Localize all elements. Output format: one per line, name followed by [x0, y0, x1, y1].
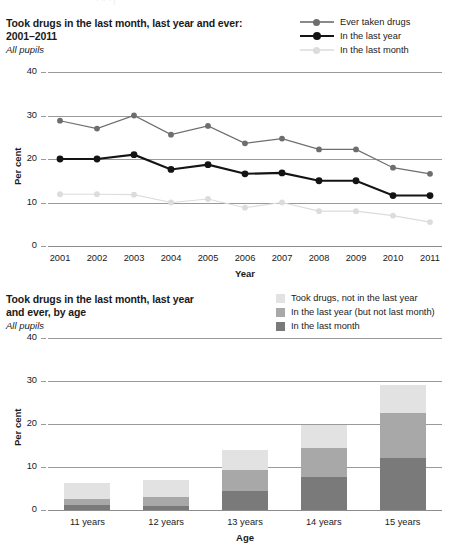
bar-chart-plot-area: 01020304011 years12 years13 years14 year… [48, 338, 442, 510]
line-chart-x-axis-title: Year [48, 268, 442, 279]
bar-14-years[interactable] [301, 425, 347, 510]
line-chart-subtitle: All pupils [6, 44, 44, 55]
swatch-took-drugs-not-in-last-year [276, 294, 285, 303]
bar-chart-y-tick-mark [41, 424, 46, 425]
line-data-point[interactable] [57, 118, 63, 124]
bar-segment-took-drugs-not-in-the-last-year[interactable] [143, 480, 189, 497]
line-data-point[interactable] [390, 213, 396, 219]
legend-label-ever-taken-drugs: Ever taken drugs [340, 17, 410, 27]
line-data-point[interactable] [427, 192, 434, 199]
bar-11-years[interactable] [64, 483, 110, 510]
bar-chart-y-tick-label: 10 [11, 461, 37, 471]
bar-chart-title-line1: Took drugs in the last month, last year [6, 293, 256, 306]
line-data-point[interactable] [316, 177, 323, 184]
line-data-point[interactable] [94, 126, 100, 132]
legend-item-in-last-year-not-last-month[interactable]: In the last year (but not last month) [276, 305, 435, 319]
line-swatch-in-the-last-month [300, 44, 334, 56]
line-data-point[interactable] [353, 177, 360, 184]
bar-segment-in-the-last-year-but-not-last-month-[interactable] [301, 448, 347, 477]
line-data-point[interactable] [205, 161, 212, 168]
bar-segment-took-drugs-not-in-the-last-year[interactable] [64, 483, 110, 499]
bar-chart-x-tick-label: 11 years [48, 517, 127, 527]
bar-segment-in-the-last-month[interactable] [222, 491, 268, 510]
bar-chart-y-tick-label: 20 [11, 418, 37, 428]
line-chart-y-tick-label: 10 [11, 197, 37, 207]
line-chart-title-line2: 2001–2011 [6, 30, 256, 43]
bar-chart-y-tick-label: 0 [11, 504, 37, 514]
line-chart-series-layer [48, 72, 442, 246]
bar-chart-y-tick-mark [41, 338, 46, 339]
bar-chart-panel: Took drugs in the last month, last year … [0, 288, 454, 545]
line-data-point[interactable] [131, 151, 138, 158]
line-data-point[interactable] [353, 147, 359, 153]
line-data-point[interactable] [168, 200, 174, 206]
legend-item-in-the-last-year[interactable]: In the last year [300, 29, 410, 43]
bar-chart-x-tick-label: 14 years [284, 517, 363, 527]
line-chart-y-tick-mark [41, 159, 46, 160]
bar-12-years[interactable] [143, 480, 189, 510]
bar-segment-in-the-last-month[interactable] [301, 477, 347, 510]
bar-segment-in-the-last-month[interactable] [64, 505, 110, 510]
line-data-point[interactable] [427, 171, 433, 177]
legend-item-bar-in-the-last-month[interactable]: In the last month [276, 319, 435, 333]
bar-chart-y-tick-mark [41, 510, 46, 511]
line-data-point[interactable] [168, 132, 174, 138]
bar-segment-took-drugs-not-in-the-last-year[interactable] [380, 385, 426, 413]
bar-chart-y-tick-label: 40 [11, 332, 37, 342]
line-chart-plot-area: 0102030402001200220032004200520062007200… [48, 72, 442, 246]
bar-segment-in-the-last-year-but-not-last-month-[interactable] [222, 470, 268, 491]
line-data-point[interactable] [279, 136, 285, 142]
bar-chart-subtitle: All pupils [6, 320, 44, 331]
legend-item-took-drugs-not-in-last-year[interactable]: Took drugs, not in the last year [276, 291, 435, 305]
line-data-point[interactable] [131, 192, 137, 198]
bar-segment-in-the-last-year-but-not-last-month-[interactable] [143, 497, 189, 506]
legend-label-in-the-last-year: In the last year [340, 31, 401, 41]
bar-segment-in-the-last-year-but-not-last-month-[interactable] [380, 413, 426, 458]
line-data-point[interactable] [205, 196, 211, 202]
line-chart-legend: Ever taken drugs In the last year In the… [300, 15, 410, 57]
line-data-point[interactable] [168, 166, 175, 173]
legend-label-bar-in-the-last-month: In the last month [291, 321, 360, 331]
bar-chart-y-tick-mark [41, 467, 46, 468]
line-data-point[interactable] [390, 165, 396, 171]
bar-chart-x-tick-label: 12 years [127, 517, 206, 527]
swatch-in-last-year-not-last-month [276, 308, 285, 317]
legend-label-in-last-year-not-last-month: In the last year (but not last month) [291, 307, 435, 317]
line-chart-y-tick-label: 20 [11, 153, 37, 163]
line-data-point[interactable] [390, 192, 397, 199]
line-swatch-in-the-last-year [300, 30, 334, 42]
line-chart-y-tick-label: 30 [11, 110, 37, 120]
line-data-point[interactable] [242, 170, 249, 177]
line-data-point[interactable] [316, 147, 322, 153]
bar-chart-gridline [48, 338, 442, 339]
bar-chart-legend: Took drugs, not in the last year In the … [276, 291, 435, 333]
bar-segment-took-drugs-not-in-the-last-year[interactable] [222, 450, 268, 470]
line-data-point[interactable] [205, 123, 211, 129]
bar-15-years[interactable] [380, 385, 426, 510]
bar-segment-in-the-last-year-but-not-last-month-[interactable] [64, 499, 110, 505]
line-data-point[interactable] [94, 156, 101, 163]
line-data-point[interactable] [353, 208, 359, 214]
line-data-point[interactable] [427, 219, 433, 225]
line-data-point[interactable] [94, 191, 100, 197]
bar-chart-x-tick-label: 13 years [206, 517, 285, 527]
line-chart-y-tick-mark [41, 203, 46, 204]
swatch-in-the-last-month [276, 322, 285, 331]
line-data-point[interactable] [242, 140, 248, 146]
line-data-point[interactable] [316, 208, 322, 214]
legend-item-ever-taken-drugs[interactable]: Ever taken drugs [300, 15, 410, 29]
line-swatch-ever-taken-drugs [300, 16, 334, 28]
line-data-point[interactable] [279, 200, 285, 206]
line-chart-y-tick-label: 0 [11, 240, 37, 250]
line-data-point[interactable] [242, 205, 248, 211]
line-data-point[interactable] [57, 191, 63, 197]
legend-item-in-the-last-month[interactable]: In the last month [300, 43, 410, 57]
bar-segment-took-drugs-not-in-the-last-year[interactable] [301, 425, 347, 448]
bar-segment-in-the-last-month[interactable] [143, 506, 189, 510]
bar-13-years[interactable] [222, 450, 268, 510]
line-data-point[interactable] [279, 170, 286, 177]
bar-segment-in-the-last-month[interactable] [380, 458, 426, 510]
line-data-point[interactable] [57, 156, 64, 163]
line-data-point[interactable] [131, 113, 137, 119]
bar-chart-gridline [48, 510, 442, 511]
